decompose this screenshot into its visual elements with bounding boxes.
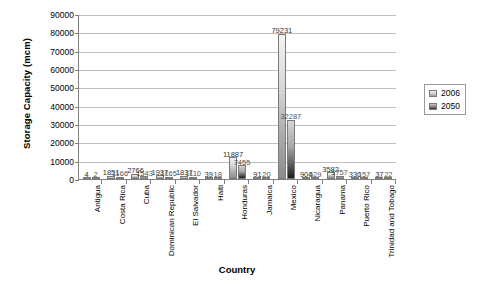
bar-group: 42 [79, 15, 103, 179]
bar-2050[interactable]: 1543 [140, 176, 148, 179]
legend-entry[interactable]: 2006 [429, 88, 460, 98]
x-axis-category-label: Cuba [142, 185, 151, 204]
x-axis-tick-mark [347, 180, 371, 184]
bar-2006[interactable]: 91 [253, 177, 261, 179]
legend-label: 2006 [441, 88, 460, 98]
plot-area: 4218511166276615431937116518371110391811… [78, 15, 396, 180]
bar-data-label: 2 [94, 171, 98, 179]
x-axis-label-cell: Trinidad and Tobago [372, 185, 396, 257]
bar-group: 27661543 [128, 15, 152, 179]
x-axis-label-cell: Mexico [274, 185, 298, 257]
y-axis-tick-label: 30000 [26, 120, 74, 130]
y-axis-tick-label: 70000 [26, 47, 74, 57]
y-axis-tick-label: 80000 [26, 28, 74, 38]
legend-entry[interactable]: 2050 [429, 101, 460, 111]
x-axis-tick-mark [225, 180, 249, 184]
bar-2050[interactable]: 1166 [116, 177, 124, 179]
x-axis-tick-mark [274, 180, 298, 184]
x-axis-label-cell: Haiti [200, 185, 224, 257]
x-axis-label-cell: Dominican Republic [151, 185, 175, 257]
bar-2050[interactable]: 1757 [336, 176, 344, 179]
bar-data-label: 22 [384, 171, 392, 179]
bar-group: 3918 [201, 15, 225, 179]
bar-2050[interactable]: 1165 [165, 177, 173, 179]
bar-data-label: 39 [204, 171, 212, 179]
y-axis-tick-labels: 9000080000700006000050000400003000020000… [26, 15, 74, 180]
bar-2006[interactable]: 4 [83, 177, 91, 179]
y-axis-tick-label: 40000 [26, 102, 74, 112]
x-axis-tick-mark [78, 180, 102, 184]
bar-data-label: 79231 [271, 27, 292, 35]
bar-2006[interactable]: 39 [205, 177, 213, 179]
bar-group: 118877455 [225, 15, 249, 179]
bar-data-label: 1110 [185, 170, 201, 178]
bar-data-label: 18 [213, 171, 221, 179]
x-axis-tick-mark [323, 180, 347, 184]
bar-2050[interactable]: 2 [92, 177, 100, 179]
x-axis-category-label: Honduras [240, 185, 249, 220]
x-axis-category-label: Panama [338, 185, 347, 215]
x-axis-tick-mark [151, 180, 175, 184]
bar-group: 9120 [250, 15, 274, 179]
bar-2050[interactable]: 22 [384, 177, 392, 179]
bar-group: 7923132287 [274, 15, 298, 179]
x-axis-category-label: Trinidad and Tobago [387, 185, 396, 258]
x-axis-label-cell: Cuba [127, 185, 151, 257]
x-axis-title: Country [78, 264, 396, 275]
bar-group: 3722 [372, 15, 396, 179]
bar-group: 330157 [347, 15, 371, 179]
x-axis-tick-marks [78, 180, 396, 184]
x-axis-category-label: Dominican Republic [167, 185, 176, 256]
x-axis-tick-mark [127, 180, 151, 184]
bar-2050[interactable]: 157 [360, 177, 368, 179]
bar-2006[interactable]: 79231 [278, 34, 286, 179]
y-axis-tick-label: 20000 [26, 138, 74, 148]
bar-data-label: 1165 [161, 170, 177, 178]
bar-2050[interactable]: 529 [311, 177, 319, 179]
x-axis-category-label: Haiti [216, 185, 225, 201]
bar-group: 18511166 [103, 15, 127, 179]
x-axis-label-cell: Antigua [78, 185, 102, 257]
bar-2050[interactable]: 1110 [189, 177, 197, 179]
legend-swatch-icon [429, 90, 437, 97]
x-axis-label-cell: Honduras [225, 185, 249, 257]
y-axis-tick-label: 90000 [26, 10, 74, 20]
x-axis-tick-mark [176, 180, 200, 184]
bar-2050[interactable]: 18 [214, 177, 222, 179]
bar-data-label: 4 [85, 171, 89, 179]
x-axis-category-label: El Salvador [191, 185, 200, 226]
x-axis-tick-mark [200, 180, 224, 184]
x-axis-category-label: Antigua [93, 185, 102, 212]
bar-2050[interactable]: 32287 [287, 120, 295, 179]
y-axis-tick-label: 10000 [26, 157, 74, 167]
bar-data-label: 37 [375, 171, 383, 179]
x-axis-label-cell: El Salvador [176, 185, 200, 257]
bar-group: 35821757 [323, 15, 347, 179]
x-axis-category-label: Costa Rica [118, 185, 127, 224]
x-axis-category-labels: AntiguaCosta RicaCubaDominican RepublicE… [78, 185, 396, 257]
x-axis-label-cell: Costa Rica [102, 185, 126, 257]
bars-layer: 4218511166276615431937116518371110391811… [79, 15, 396, 179]
legend: 20062050 [424, 84, 466, 115]
x-axis-tick-mark [249, 180, 273, 184]
bar-2050[interactable]: 20 [262, 177, 270, 179]
x-axis-label-cell: Puerto Rico [347, 185, 371, 257]
x-axis-category-label: Puerto Rico [362, 185, 371, 227]
x-axis-label-cell: Panama [323, 185, 347, 257]
bar-group: 18371110 [177, 15, 201, 179]
bar-2006[interactable]: 37 [375, 177, 383, 179]
bar-data-label: 7455 [234, 159, 251, 167]
bar-data-label: 1543 [136, 170, 153, 178]
x-axis-tick-mark [372, 180, 396, 184]
storage-capacity-bar-chart: Storage Capacity (mcm) 90000800007000060… [0, 0, 495, 297]
bar-2050[interactable]: 7455 [238, 165, 246, 179]
bar-group: 904529 [299, 15, 323, 179]
legend-swatch-icon [429, 103, 437, 110]
y-axis-tick-label: 60000 [26, 65, 74, 75]
x-axis-category-label: Nicaragua [313, 185, 322, 221]
x-axis-tick-mark [102, 180, 126, 184]
x-axis-label-cell: Jamaica [249, 185, 273, 257]
bar-data-label: 1757 [331, 169, 348, 177]
legend-label: 2050 [441, 101, 460, 111]
bar-data-label: 20 [262, 171, 270, 179]
